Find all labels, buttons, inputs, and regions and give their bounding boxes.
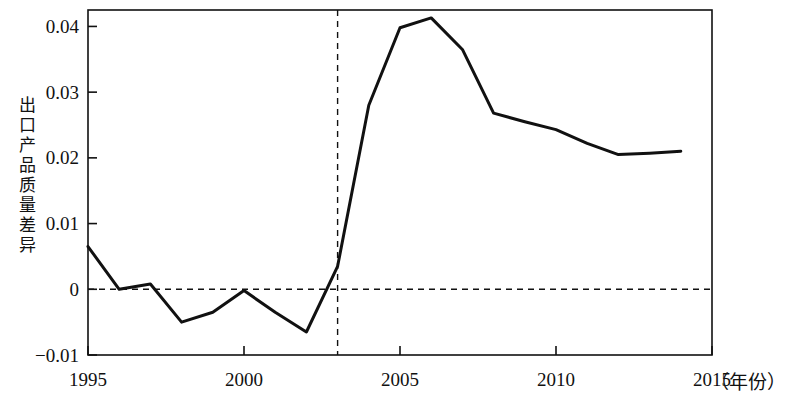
x-axis-tick-labels: 19952000200520102015	[69, 369, 731, 390]
x-tick-label: 2010	[537, 369, 575, 390]
y-tick-label: 0.02	[46, 147, 79, 168]
data-series-line	[88, 18, 681, 332]
y-tick-label: 0.01	[46, 213, 79, 234]
y-tick-label: 0.04	[46, 16, 80, 37]
x-axis-ticks	[88, 346, 712, 355]
chart-container: 出 口 产 品 质 量 差 异 0.040.030.020.010−0.01 1…	[0, 0, 805, 411]
line-chart: 0.040.030.020.010−0.01 19952000200520102…	[0, 0, 805, 411]
reference-lines	[88, 10, 712, 355]
y-tick-label: 0.03	[46, 82, 79, 103]
plot-frame	[88, 10, 712, 355]
x-tick-label: 2005	[381, 369, 419, 390]
x-axis-unit-label: （年份）	[710, 372, 786, 393]
y-tick-label: −0.01	[35, 345, 79, 366]
x-tick-label: 2000	[225, 369, 263, 390]
y-tick-label: 0	[70, 279, 80, 300]
y-axis-tick-labels: 0.040.030.020.010−0.01	[35, 16, 79, 366]
x-tick-label: 1995	[69, 369, 107, 390]
y-axis-ticks	[88, 26, 97, 355]
